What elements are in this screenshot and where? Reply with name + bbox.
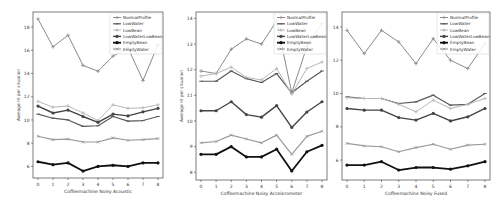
x-tick-label: 6: [127, 182, 130, 187]
x-tick-label: 4: [415, 184, 418, 189]
y-tick-label: 6: [336, 158, 339, 163]
y-axis: 68101214: [333, 25, 342, 163]
legend-label: EmptyWater: [287, 47, 313, 52]
legend-item: LowBean: [113, 28, 142, 33]
legend-label: NormalProfile: [123, 15, 152, 20]
legend-item: LowBean: [277, 28, 306, 33]
x-tick-label: 8: [157, 182, 160, 187]
legend-label: NormalProfile: [287, 15, 316, 20]
chart-fused: 68101214Average HI per situation01234567…: [330, 0, 492, 205]
series-emptywater: [346, 142, 487, 153]
figure: 681012141618Average HI per situation0123…: [0, 0, 492, 205]
y-tick-label: 16: [24, 48, 30, 53]
y-tick-label: 10: [187, 119, 193, 124]
y-tick-label: 18: [24, 25, 30, 30]
legend-label: LowBean: [287, 28, 306, 33]
y-tick-label: 12: [187, 67, 193, 72]
y-tick-label: 10: [333, 91, 339, 96]
x-tick-label: 7: [305, 184, 308, 189]
y-axis-label: Average HI per situation: [179, 70, 184, 122]
y-tick-label: 14: [333, 25, 339, 30]
series-emptybean: [345, 160, 486, 172]
x-tick-label: 3: [245, 184, 248, 189]
legend-label: NormalProfile: [450, 15, 479, 20]
series-lowbean: [345, 96, 487, 114]
legend: NormalProfileLowWaterLowBeanLowWaterLowB…: [274, 13, 327, 54]
y-tick-label: 9: [190, 144, 193, 149]
x-tick-label: 3: [82, 182, 85, 187]
x-tick-label: 3: [397, 184, 400, 189]
x-tick-label: 1: [52, 182, 55, 187]
chart-accelerometer: 891011121314Average HI per situation0123…: [165, 0, 330, 205]
y-axis-label: Average HI per situation: [16, 69, 21, 121]
x-tick-label: 5: [112, 182, 115, 187]
series-lowbean: [199, 60, 324, 96]
x-axis-label: Coffeemachine Noisy Acoustic: [64, 189, 133, 194]
x-tick-label: 8: [484, 184, 487, 189]
legend-label: EmptyWater: [450, 47, 476, 52]
x-tick-label: 8: [321, 184, 324, 189]
x-tick-label: 0: [200, 184, 203, 189]
series-lowwater: [199, 71, 324, 93]
legend-label: LowWater: [450, 21, 471, 26]
x-axis-label: Coffeemachine Noisy Fused: [385, 191, 447, 196]
legend-label: EmptyBean: [287, 40, 312, 45]
legend-label: EmptyWater: [123, 47, 149, 52]
y-tick-label: 13: [187, 42, 193, 47]
series-emptybean: [199, 144, 323, 173]
legend-label: LowWater: [287, 21, 308, 26]
legend-label: EmptyBean: [123, 40, 148, 45]
legend-label: LowWater: [123, 21, 144, 26]
y-tick-label: 14: [187, 16, 193, 21]
y-tick-label: 8: [336, 124, 339, 129]
x-tick-label: 7: [142, 182, 145, 187]
y-tick-label: 14: [24, 71, 30, 76]
x-tick-label: 0: [346, 184, 349, 189]
legend: NormalProfileLowWaterLowBeanLowWaterLowB…: [110, 13, 163, 54]
series-lowwaterlowbean: [345, 107, 486, 123]
x-axis: 012345678: [346, 180, 487, 189]
x-axis: 012345678: [37, 178, 160, 187]
legend: NormalProfileLowWaterLowBeanLowWaterLowB…: [437, 13, 490, 54]
legend-label: LowWaterLowBean: [287, 34, 327, 39]
y-tick-label: 6: [27, 164, 30, 169]
y-tick-label: 11: [187, 93, 193, 98]
chart-acoustic: 681012141618Average HI per situation0123…: [0, 0, 165, 205]
legend-label: LowBean: [450, 28, 469, 33]
legend-label: LowWaterLowBean: [123, 34, 163, 39]
legend-item: LowBean: [440, 28, 469, 33]
x-tick-label: 2: [230, 184, 233, 189]
x-tick-label: 6: [449, 184, 452, 189]
x-tick-label: 5: [275, 184, 278, 189]
x-tick-label: 1: [215, 184, 218, 189]
x-tick-label: 7: [466, 184, 469, 189]
legend-label: LowWaterLowBean: [450, 34, 490, 39]
legend-label: EmptyBean: [450, 40, 475, 45]
x-axis-label: Coffeemachine Noisy Accelerometer: [221, 191, 303, 196]
y-tick-label: 12: [24, 94, 30, 99]
x-tick-label: 4: [97, 182, 100, 187]
y-tick-label: 8: [27, 141, 30, 146]
series-lowwaterlowbean: [199, 100, 323, 129]
y-tick-label: 12: [333, 58, 339, 63]
x-tick-label: 2: [380, 184, 383, 189]
x-tick-label: 6: [290, 184, 293, 189]
legend-label: LowBean: [123, 28, 142, 33]
x-tick-label: 5: [432, 184, 435, 189]
y-tick-label: 8: [190, 170, 193, 175]
x-tick-label: 2: [67, 182, 70, 187]
series-emptywater: [37, 135, 160, 144]
x-axis: 012345678: [200, 180, 324, 189]
y-tick-label: 10: [24, 118, 30, 123]
series-emptybean: [36, 160, 159, 172]
series-emptywater: [200, 130, 324, 156]
x-tick-label: 4: [260, 184, 263, 189]
series-lowwater: [345, 94, 487, 106]
y-axis: 681012141618: [24, 25, 33, 169]
x-tick-label: 0: [37, 182, 40, 187]
x-tick-label: 1: [363, 184, 366, 189]
y-axis: 891011121314: [187, 16, 196, 175]
